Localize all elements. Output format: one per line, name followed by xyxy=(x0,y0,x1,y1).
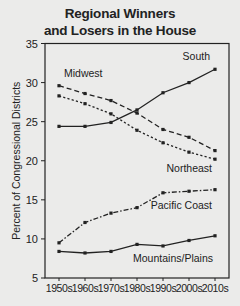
data-point xyxy=(57,125,60,128)
data-point xyxy=(83,102,86,105)
y-tick-label: 10 xyxy=(26,233,38,245)
y-tick-label: 25 xyxy=(26,116,38,128)
data-point xyxy=(83,221,86,224)
data-point xyxy=(135,206,138,209)
data-point xyxy=(109,99,112,102)
data-point xyxy=(213,149,216,152)
data-point xyxy=(161,191,164,194)
y-tick-label: 20 xyxy=(26,155,38,167)
data-point xyxy=(213,68,216,71)
data-point xyxy=(187,151,190,154)
data-point xyxy=(57,250,60,253)
data-point xyxy=(161,244,164,247)
x-tick-label: 2000s xyxy=(176,282,203,294)
data-point xyxy=(135,129,138,132)
data-point xyxy=(161,128,164,131)
x-tick-label: 1960s xyxy=(72,282,99,294)
x-tick-label: 1970s xyxy=(98,282,125,294)
x-tick-label: 1990s xyxy=(150,282,177,294)
data-point xyxy=(83,125,86,128)
data-point xyxy=(109,121,112,124)
x-tick-label: 1950s xyxy=(46,282,73,294)
data-point xyxy=(213,188,216,191)
series-label-midwest: Midwest xyxy=(64,67,103,79)
series-label-pacific-coast: Pacific Coast xyxy=(151,199,212,211)
data-point xyxy=(213,158,216,161)
data-point xyxy=(57,241,60,244)
data-point xyxy=(109,112,112,115)
data-point xyxy=(187,81,190,84)
data-point xyxy=(187,190,190,193)
data-point xyxy=(83,92,86,95)
series-label-south: South xyxy=(183,50,211,62)
x-tick-label: 2010s xyxy=(202,282,229,294)
data-point xyxy=(161,141,164,144)
x-tick-label: 1980s xyxy=(124,282,151,294)
data-point xyxy=(187,239,190,242)
series-line-pacific-coast xyxy=(59,190,215,243)
series-label-northeast: Northeast xyxy=(166,162,212,174)
series-line-northeast xyxy=(59,96,215,159)
data-point xyxy=(109,212,112,215)
data-point xyxy=(187,136,190,139)
series-line-midwest xyxy=(59,86,215,151)
y-tick-label: 5 xyxy=(32,272,38,284)
data-point xyxy=(161,91,164,94)
data-point xyxy=(83,251,86,254)
data-point xyxy=(109,250,112,253)
data-point xyxy=(135,243,138,246)
data-point xyxy=(213,234,216,237)
data-point xyxy=(135,111,138,114)
y-tick-label: 35 xyxy=(26,38,38,50)
y-axis-label: Percent of Congressional Districts xyxy=(10,82,22,240)
data-point xyxy=(57,84,60,87)
data-point xyxy=(135,108,138,111)
y-tick-label: 30 xyxy=(26,77,38,89)
chart-container: Regional Winners and Losers in the House… xyxy=(0,0,240,306)
data-point xyxy=(57,94,60,97)
line-chart: 51015202530351950s1960s1970s1980s1990s20… xyxy=(0,0,240,306)
y-tick-label: 15 xyxy=(26,194,38,206)
series-label-mountains-plains: Mountains/Plains xyxy=(133,252,213,264)
